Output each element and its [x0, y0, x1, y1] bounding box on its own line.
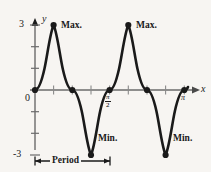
y-axis-label: y	[42, 14, 46, 24]
period-arrow-right	[104, 158, 110, 163]
point-min-3	[88, 152, 94, 158]
point-zero-6	[144, 87, 150, 93]
min-label-right: Min.	[173, 134, 192, 144]
chart-canvas	[0, 0, 211, 172]
y-tick-label-neg3: -3	[13, 149, 21, 159]
max-label-right: Max.	[136, 21, 157, 31]
pi-over-2-denominator: 2	[105, 102, 111, 109]
x-axis-label: x	[201, 84, 205, 94]
point-max-1	[51, 22, 57, 28]
point-zero-2	[69, 87, 75, 93]
sine-wave-figure: y x 3 -3 0 π 2 π Max. Max. Min. Min. Per…	[0, 0, 211, 172]
point-max-5	[125, 22, 131, 28]
x-tick-label-pi-over-2: π 2	[105, 94, 111, 110]
origin-label: 0	[25, 93, 30, 103]
x-tick-label-pi: π	[181, 94, 185, 102]
period-label: Period	[50, 156, 81, 166]
point-zero-0	[32, 87, 38, 93]
y-tick-label-3: 3	[19, 19, 24, 29]
x-axis-arrowhead	[192, 86, 200, 93]
point-min-7	[163, 152, 169, 158]
max-label-left: Max.	[61, 21, 82, 31]
period-arrow-left	[35, 158, 41, 163]
min-label-left: Min.	[98, 134, 117, 144]
